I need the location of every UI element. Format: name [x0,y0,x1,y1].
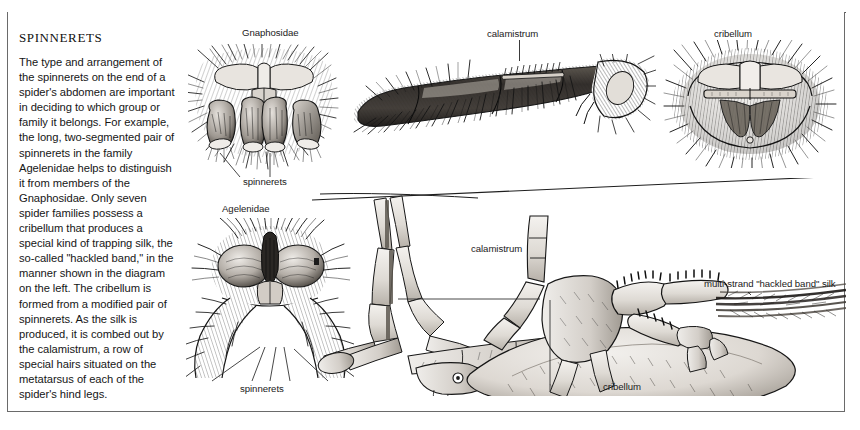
label-agelenidae: Agelenidae [222,203,270,214]
text-column: Spinnerets The type and arrangement of t… [19,26,177,402]
label-agelenidae-spinnerets: spinnerets [240,383,284,394]
calamistrum-leg-illustration [352,54,656,136]
label-diagram-cribellum: cribellum [603,381,641,392]
page-title: Spinnerets [19,26,177,45]
label-diagram-silk: multi-strand "hackled band" silk [704,278,836,289]
label-gnaphosidae: Gnaphosidae [242,27,299,38]
label-calamistrum-leg: calamistrum [487,28,538,39]
label-diagram-calamistrum: calamistrum [471,243,522,254]
body-text: The type and arrangement of the spinnere… [19,55,177,402]
label-cribellum-plate: cribellum [714,28,752,39]
cribellum-illustration [662,40,838,168]
spinnerets-plate: Spinnerets The type and arrangement of t… [0,0,860,430]
label-gnaphosidae-spinnerets: spinnerets [243,176,287,187]
